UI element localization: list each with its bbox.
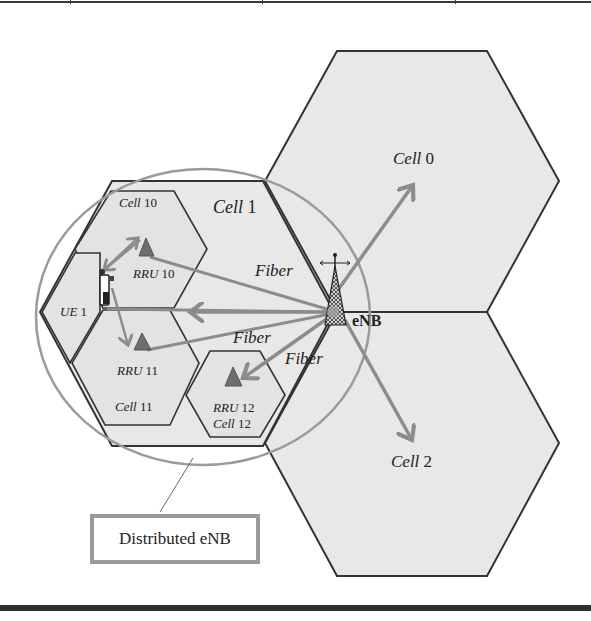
network-diagram	[0, 0, 591, 621]
cell-12-label-name: Cell	[213, 416, 235, 431]
callout-leader-line	[160, 458, 193, 512]
cell-0-label: Cell 0	[393, 150, 434, 167]
cell-1-label-num: 1	[248, 197, 257, 217]
rru-11-label: RRU 11	[117, 364, 158, 377]
rru-11-label-num: 11	[146, 363, 159, 378]
table-bottom-border	[0, 605, 591, 611]
ue-label-num: 1	[81, 304, 88, 319]
rru-12-label-num: 12	[242, 400, 255, 415]
cell-11-label: Cell 11	[115, 400, 152, 413]
cell-2-label-num: 2	[424, 452, 433, 471]
cell-0-label-name: Cell	[393, 149, 421, 168]
cell-11-label-name: Cell	[115, 399, 137, 414]
cell-12-label: Cell 12	[213, 417, 251, 430]
ue-1-label: UE 1	[60, 305, 87, 318]
fiber-label-upper: Fiber	[255, 262, 293, 279]
enb-label: eNB	[352, 313, 381, 329]
cell-2-label-name: Cell	[391, 452, 419, 471]
cell-0-label-num: 0	[426, 149, 435, 168]
cell-10-label: Cell 10	[119, 196, 157, 209]
rru-10-label-name: RRU	[133, 266, 158, 281]
cell-12-label-num: 12	[238, 416, 251, 431]
cell-10-label-num: 10	[144, 195, 157, 210]
distributed-enb-callout: Distributed eNB	[90, 514, 260, 564]
ue-label-name: UE	[60, 304, 77, 319]
callout-label: Distributed eNB	[119, 529, 231, 549]
cell-1-label: Cell 1	[213, 198, 257, 216]
fiber-label-lower: Fiber	[285, 350, 323, 367]
cell-1-label-name: Cell	[213, 197, 243, 217]
cell-11-label-num: 11	[140, 399, 153, 414]
rru-10-label: RRU 10	[133, 267, 175, 280]
rru-11-label-name: RRU	[117, 363, 142, 378]
rru-12-label-name: RRU	[213, 400, 238, 415]
cell-2-label: Cell 2	[391, 453, 432, 470]
rru-10-label-num: 10	[162, 266, 175, 281]
rru-12-label: RRU 12	[213, 401, 255, 414]
cell-10-label-name: Cell	[119, 195, 141, 210]
fiber-label-middle: Fiber	[233, 329, 271, 346]
